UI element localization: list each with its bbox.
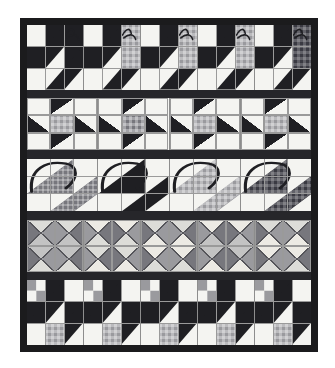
quilt-block-hourglass <box>140 220 197 273</box>
quilt-block-hourglass <box>27 220 83 273</box>
patch-seam-x <box>256 221 282 245</box>
quilt-sashing-strip <box>27 90 311 98</box>
patch <box>288 133 311 151</box>
quilt-row-star-row <box>27 98 311 151</box>
patch-quarter-square <box>141 246 169 272</box>
patch <box>27 115 50 133</box>
star-grid <box>170 98 240 151</box>
patch-seam-x <box>199 221 225 245</box>
patch <box>122 98 145 116</box>
quilt-interior <box>27 25 311 345</box>
patch-quarter-square <box>169 246 197 272</box>
patch-quarter-square <box>226 220 254 246</box>
patch <box>27 98 50 116</box>
hourglass-grid <box>27 220 83 273</box>
patch-quarter-square <box>283 220 311 246</box>
quilt-block-basket <box>27 159 97 212</box>
hourglass-grid <box>84 220 140 273</box>
patch <box>170 98 193 116</box>
patch-quarter-square <box>27 246 55 272</box>
quilt-block-star <box>27 98 97 151</box>
quilt-block-bug <box>27 25 83 90</box>
hourglass-grid <box>255 220 311 273</box>
patch-seam-x <box>256 247 282 271</box>
quilt-block-star <box>97 98 168 151</box>
patch <box>241 133 264 151</box>
patch-seam-x <box>142 247 168 271</box>
patch <box>264 98 287 116</box>
patch <box>216 115 239 133</box>
star-grid <box>98 98 168 151</box>
patch <box>74 133 97 151</box>
antennae-icon <box>27 25 83 90</box>
patch <box>50 133 73 151</box>
patch-seam-x <box>85 247 111 271</box>
patch <box>145 115 168 133</box>
antennae-icon <box>141 25 197 90</box>
basket-handle-icon <box>241 159 311 212</box>
antennae-icon <box>255 25 311 90</box>
quilt-outer-border <box>20 18 318 352</box>
patch <box>122 133 145 151</box>
quilt-sashing-strip <box>27 272 311 280</box>
hourglass-grid <box>141 220 197 273</box>
patch <box>74 98 97 116</box>
quilt-row-bug-row-bottom <box>27 280 311 345</box>
patch-quarter-square <box>169 220 197 246</box>
quilt-sashing-strip <box>27 211 311 219</box>
patch-seam-x <box>170 221 196 245</box>
patch-seam-x <box>28 221 54 245</box>
patch <box>170 133 193 151</box>
antennae-icon <box>84 25 140 90</box>
patch-quarter-square <box>84 220 112 246</box>
quilt-sashing-strip <box>27 150 311 158</box>
patch <box>145 98 168 116</box>
patch-seam-x <box>56 247 82 271</box>
quilt-block-bug <box>254 25 311 90</box>
patch-seam-x <box>85 221 111 245</box>
patch-quarter-square <box>112 220 140 246</box>
antennae-icon <box>198 25 254 90</box>
patch <box>288 115 311 133</box>
patch-quarter-square <box>84 246 112 272</box>
patch-quarter-square <box>141 220 169 246</box>
quilt-row-hourglass-row <box>27 220 311 273</box>
star-center <box>50 115 73 133</box>
patch <box>193 133 216 151</box>
patch-seam-x <box>142 221 168 245</box>
patch-seam-x <box>113 247 139 271</box>
patch-quarter-square <box>55 220 83 246</box>
patch-quarter-square <box>198 246 226 272</box>
patch <box>216 133 239 151</box>
star-grid <box>241 98 311 151</box>
patch-seam-x <box>284 221 310 245</box>
patch-seam-x <box>170 247 196 271</box>
star-center <box>122 115 145 133</box>
star-center <box>193 115 216 133</box>
patch <box>193 98 216 116</box>
quilt-row-basket-row <box>27 159 311 212</box>
patch <box>74 115 97 133</box>
quilt-block-bug <box>197 25 254 90</box>
quilt-block-basket <box>240 159 311 212</box>
quilt-block-star <box>169 98 240 151</box>
patch <box>264 133 287 151</box>
star-center <box>264 115 287 133</box>
patch-seam-x <box>227 221 253 245</box>
patch <box>98 115 121 133</box>
quilt-block-bug <box>140 280 197 345</box>
basket-handle-icon <box>98 159 168 212</box>
patch <box>50 98 73 116</box>
patch <box>241 115 264 133</box>
patch <box>98 133 121 151</box>
quilt-block-star <box>240 98 311 151</box>
quilt-block-bug <box>83 280 140 345</box>
quilt-photo <box>0 0 335 368</box>
hourglass-grid <box>198 220 254 273</box>
patch <box>170 115 193 133</box>
patch <box>27 133 50 151</box>
patch-quarter-square <box>112 246 140 272</box>
patch-quarter-square <box>198 220 226 246</box>
basket-handle-icon <box>27 159 97 212</box>
patch <box>216 98 239 116</box>
